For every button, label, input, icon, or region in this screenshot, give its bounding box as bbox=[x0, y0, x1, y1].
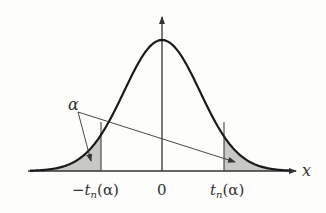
alpha-label: α bbox=[68, 95, 79, 114]
x-axis-label: x bbox=[302, 161, 311, 180]
tick-label-neg-critical: −tn(α) bbox=[72, 181, 119, 200]
tick-neg-t: −t bbox=[72, 181, 92, 199]
tick-pos-arg: (α) bbox=[222, 181, 244, 199]
tick-label-zero: 0 bbox=[157, 181, 167, 199]
alpha-pointer-right bbox=[78, 112, 235, 162]
diagram-canvas: α x 0 −tn(α) tn(α) bbox=[0, 0, 326, 213]
tick-neg-arg: (α) bbox=[97, 181, 119, 199]
tick-label-pos-critical: tn(α) bbox=[210, 181, 244, 200]
t-distribution-diagram: α x 0 −tn(α) tn(α) bbox=[0, 0, 326, 213]
